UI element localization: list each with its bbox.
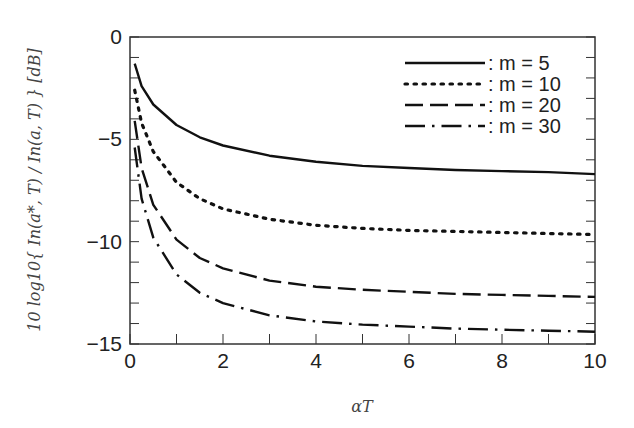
line-chart: 02468100−5−10−15 : m = 5: m = 10: m = 20… — [0, 0, 634, 428]
y-tick-label: −10 — [86, 230, 122, 253]
x-tick-label: 4 — [310, 349, 322, 372]
legend-label: : m = 20 — [488, 94, 561, 116]
series-line — [135, 121, 595, 297]
series-line — [135, 148, 595, 332]
y-axis-label: 10 log10{ In(a*, T) / In(a, T) } [dB] — [25, 48, 44, 332]
y-tick-label: −15 — [86, 332, 122, 355]
y-tick-label: 0 — [110, 25, 122, 48]
y-tick-label: −5 — [98, 127, 122, 150]
legend-label: : m = 30 — [488, 115, 561, 137]
x-tick-label: 2 — [217, 349, 229, 372]
x-tick-label: 0 — [124, 349, 136, 372]
x-axis-label: αT — [351, 397, 374, 416]
legend-label: : m = 10 — [488, 73, 561, 95]
x-tick-label: 8 — [496, 349, 508, 372]
x-tick-label: 6 — [403, 349, 415, 372]
legend-label: : m = 5 — [488, 52, 550, 74]
legend: : m = 5: m = 10: m = 20: m = 30 — [405, 52, 561, 137]
x-tick-label: 10 — [583, 349, 606, 372]
